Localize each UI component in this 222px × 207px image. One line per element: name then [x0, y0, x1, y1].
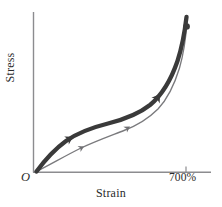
y-axis-title: Stress — [3, 60, 18, 76]
unloading-curve-arrow-1 — [78, 143, 86, 151]
x-axis-title: Strain — [96, 186, 126, 201]
origin-label: O — [21, 170, 30, 185]
stress-strain-figure: Stress Strain O 700% — [0, 0, 222, 207]
peak-node-marker — [183, 23, 190, 30]
loading-curve — [37, 17, 187, 172]
y-axis-title-text: Stress — [3, 38, 18, 98]
x-axis-tick-label-700: 700% — [169, 171, 196, 183]
